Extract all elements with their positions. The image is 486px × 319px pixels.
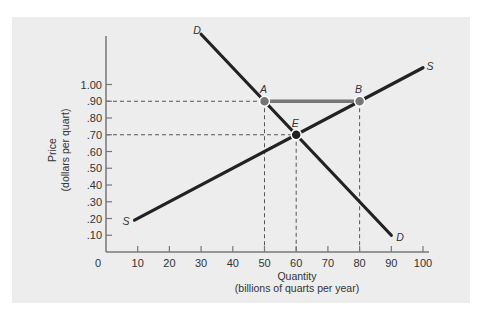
y-tick-label: .30 — [87, 196, 102, 208]
supply-label-bottom: S — [122, 215, 129, 227]
x-tick-label: 50 — [258, 257, 270, 269]
x-tick-label: 100 — [414, 257, 432, 269]
x-tick-label: 90 — [385, 257, 397, 269]
supply-label-top: S — [426, 60, 433, 72]
y-tick-label: .90 — [87, 95, 102, 107]
y-tick-label: .80 — [87, 112, 102, 124]
point-b — [355, 96, 365, 106]
x-tick-label: 10 — [132, 257, 144, 269]
y-axis-title: Price — [46, 138, 58, 162]
x-axis-subtitle: (billions of quarts per year) — [235, 282, 359, 294]
demand-label-top: D — [193, 24, 201, 36]
y-tick-label: 1.00 — [81, 79, 102, 91]
y-axis-subtitle: (dollars per quart) — [59, 109, 71, 192]
x-tick-label: 30 — [195, 257, 207, 269]
y-tick-label: .10 — [87, 229, 102, 241]
y-tick-label: .20 — [87, 213, 102, 225]
point-a — [260, 96, 270, 106]
x-tick-label: 80 — [353, 257, 365, 269]
point-label-a: A — [259, 83, 267, 95]
x-tick-label: 20 — [163, 257, 175, 269]
point-e — [291, 130, 301, 140]
demand-label-bottom: D — [396, 231, 404, 243]
supply-curve — [135, 68, 423, 220]
y-tick-label: .50 — [87, 162, 102, 174]
x-axis-title: Quantity — [277, 270, 317, 282]
y-tick-label: .40 — [87, 179, 102, 191]
x-tick-label: 70 — [322, 257, 334, 269]
y-tick-label: .60 — [87, 146, 102, 158]
x-tick-label: 0 — [95, 257, 101, 269]
x-tick-label: 40 — [227, 257, 239, 269]
y-tick-label: .70 — [87, 129, 102, 141]
supply-demand-chart: 0102030405060708090100.10.20.30.40.50.60… — [0, 0, 486, 319]
point-label-b: B — [355, 83, 362, 95]
x-tick-label: 60 — [290, 257, 302, 269]
point-label-e: E — [292, 117, 300, 129]
